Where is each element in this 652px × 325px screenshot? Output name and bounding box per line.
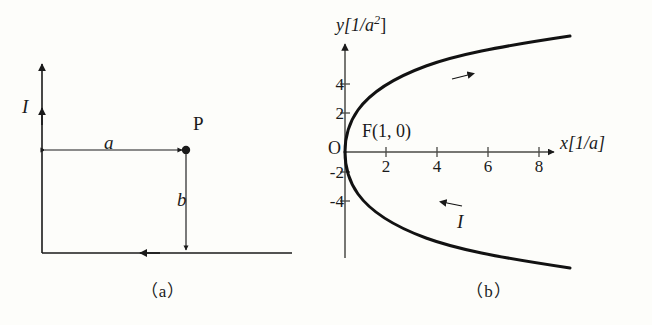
y-tick-label-4: 4 [322,76,344,93]
y-tick-label-minus-4: -4 [314,193,344,210]
flow-arrow-lower [442,202,462,206]
y-axis-label: y[1/a2] [336,14,386,34]
caption-a: （a） [0,277,326,302]
y-axis-label-tail: ] [380,15,386,35]
origin-label: O [328,139,341,157]
current-label-a: I [22,97,28,116]
x-tick-label-6: 6 [478,158,498,175]
flow-arrow-upper [452,74,472,79]
focus-label: F(1, 0) [362,122,411,140]
x-tick-label-8: 8 [529,158,549,175]
distance-label-a: a [104,133,114,152]
figure-container: I a b P （a） [0,0,652,325]
y-axis-label-base: y[1/a [336,15,374,35]
point-p-marker [182,146,190,154]
y-tick-label-minus-2: -2 [314,164,344,181]
panel-a: I a b P （a） [0,0,326,325]
point-p-label: P [193,114,204,133]
y-tick-label-2: 2 [322,105,344,122]
x-tick-label-4: 4 [427,158,447,175]
x-tick-label-2: 2 [376,158,396,175]
x-axis-label: x[1/a] [560,134,605,152]
panel-b: y[1/a2] x[1/a] O F(1, 0) I 2 4 6 8 4 2 -… [326,0,652,325]
caption-b: （b） [326,277,652,302]
current-label-b: I [457,212,463,231]
distance-label-b: b [177,190,187,209]
